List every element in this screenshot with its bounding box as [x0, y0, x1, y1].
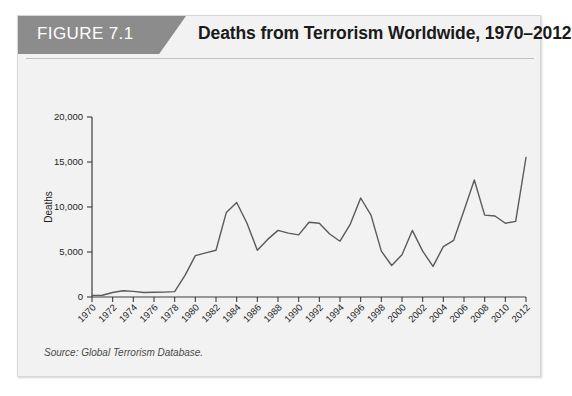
- header-divider: [26, 58, 534, 59]
- x-tick-label: 2004: [427, 302, 450, 325]
- x-tick-label: 1984: [220, 302, 243, 325]
- figure-header: FIGURE 7.1 Deaths from Terrorism Worldwi…: [18, 16, 540, 54]
- figure-tag-label: FIGURE 7.1: [37, 24, 134, 44]
- x-tick-label: 1996: [344, 302, 367, 325]
- y-tick-label: 0: [78, 291, 83, 302]
- y-tick-label: 15,000: [54, 156, 83, 167]
- x-tick-label: 2000: [385, 302, 408, 325]
- chart-plot-area: 05,00010,00015,00020,0001970197219741976…: [18, 62, 542, 330]
- source-note: Source: Global Terrorism Database.: [44, 347, 203, 358]
- figure-card: FIGURE 7.1 Deaths from Terrorism Worldwi…: [17, 15, 541, 377]
- data-series-line: [92, 158, 526, 296]
- x-tick-label: 1980: [179, 302, 202, 325]
- x-tick-label: 1992: [303, 302, 326, 325]
- x-tick-label: 1974: [117, 302, 140, 325]
- x-tick-label: 2006: [447, 302, 470, 325]
- x-tick-label: 1970: [75, 302, 98, 325]
- x-tick-label: 1986: [241, 302, 264, 325]
- x-tick-label: 1998: [365, 302, 388, 325]
- x-tick-label: 1978: [158, 302, 181, 325]
- x-tick-label: 1988: [261, 302, 284, 325]
- x-tick-label: 1994: [323, 302, 346, 325]
- x-tick-label: 1976: [137, 302, 160, 325]
- y-tick-label: 20,000: [54, 111, 83, 122]
- y-tick-label: 5,000: [59, 246, 83, 257]
- x-tick-label: 2012: [509, 302, 532, 325]
- x-tick-label: 1972: [96, 302, 119, 325]
- x-tick-label: 1990: [282, 302, 305, 325]
- x-tick-label: 2010: [489, 302, 512, 325]
- x-tick-label: 2008: [468, 302, 491, 325]
- line-chart: 05,00010,00015,00020,0001970197219741976…: [18, 62, 542, 330]
- figure-title: Deaths from Terrorism Worldwide, 1970–20…: [198, 23, 572, 44]
- x-tick-label: 1982: [199, 302, 222, 325]
- x-tick-label: 2002: [406, 302, 429, 325]
- y-tick-label: 10,000: [54, 201, 83, 212]
- y-axis-title: Deaths: [43, 191, 54, 223]
